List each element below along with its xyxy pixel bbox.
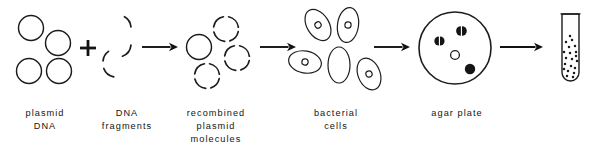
culture-bacterium-dot	[574, 67, 577, 70]
arrow-2-icon	[260, 43, 296, 51]
cloning-diagram: plasmid DNA DNA fragments recombined pla…	[0, 0, 595, 154]
culture-bacterium-dot	[565, 57, 568, 60]
colony-solid	[465, 64, 475, 74]
bacterial-cell	[287, 48, 323, 75]
culture-bacterium-dot	[574, 45, 577, 48]
bacterial-cell	[335, 6, 361, 44]
bacterial-cell-body	[287, 48, 323, 75]
plus-icon	[80, 40, 96, 56]
culture-bacterium-dot	[569, 35, 572, 38]
culture-bacterium-dot	[565, 41, 568, 44]
dna-fragment-arc	[125, 17, 131, 27]
recombined-plasmid-segment	[214, 17, 224, 27]
culture-bacterium-dot	[571, 39, 574, 42]
recombined-plasmid-segment	[225, 61, 236, 70]
recombined-plasmid-intact	[187, 35, 212, 60]
caption-bacterial-cells: bacterial cells	[294, 107, 378, 133]
recombined-plasmid-segment	[214, 32, 225, 41]
bacterial-cell	[328, 47, 350, 83]
dna-fragments-group	[103, 17, 131, 77]
bacterial-cell-body	[300, 5, 337, 45]
recombined-plasmid-segment	[210, 64, 220, 74]
agar-plate-group	[419, 12, 491, 84]
arrow-3-icon	[374, 43, 410, 51]
caption-dna-fragments: DNA fragments	[88, 107, 166, 133]
recombined-plasmid-segment	[230, 32, 238, 41]
culture-bacterium-dot	[570, 65, 573, 68]
recombined-plasmid-segment	[229, 17, 239, 27]
culture-bacterium-dot	[567, 70, 570, 73]
colony-open	[451, 51, 460, 60]
culture-bacterium-dot	[575, 51, 578, 54]
caption-plasmid-dna: plasmid DNA	[8, 107, 82, 133]
culture-bacterium-dot	[563, 51, 566, 54]
dna-fragment-arc	[122, 45, 131, 56]
recombined-plasmid-segment	[211, 79, 219, 88]
recombined-plasmid-segment	[195, 64, 205, 74]
arrow-4-icon	[500, 43, 543, 51]
plasmid-circle	[46, 31, 71, 56]
plasmid-dna-group	[17, 16, 72, 84]
bacterial-cell-body	[335, 6, 361, 44]
culture-bacterium-dot	[566, 75, 569, 78]
culture-bacterium-dot	[576, 60, 579, 63]
plus-operator	[80, 40, 96, 56]
culture-bacterium-dot	[569, 52, 572, 55]
bacterial-cell-body	[328, 47, 350, 83]
bacterial-cells-group	[287, 5, 386, 94]
plasmid-circle	[47, 59, 72, 84]
culture-bacterium-dot	[564, 63, 567, 66]
plasmid-circle	[19, 16, 44, 41]
agar-plate-dish	[419, 12, 491, 84]
culture-bacterium-dot	[571, 58, 574, 61]
bacterial-cell	[353, 55, 386, 94]
culture-tube-group	[561, 14, 581, 81]
plasmid-circle	[17, 59, 42, 84]
culture-bacterium-dot	[572, 76, 575, 79]
plus-bar-v	[87, 40, 90, 56]
dna-fragment-arc	[103, 51, 108, 61]
culture-bacterium-dot	[563, 68, 566, 71]
culture-bacterium-dot	[573, 72, 576, 75]
culture-bacterium-dot	[575, 55, 578, 58]
arrow-1-icon	[142, 43, 178, 51]
dna-fragment-arc	[104, 68, 114, 76]
caption-agar-plate: agar plate	[408, 107, 506, 120]
recombined-plasmids-group	[187, 17, 250, 89]
recombined-plasmid-segment	[195, 79, 206, 88]
test-tube-body	[562, 14, 579, 81]
culture-bacterium-dot	[568, 46, 571, 49]
bacterial-cell-body	[353, 55, 386, 94]
recombined-plasmid-segment	[240, 46, 250, 56]
recombined-plasmid-segment	[241, 61, 249, 70]
bacterial-cell	[300, 5, 337, 45]
caption-recombined-plasmid-molecules: recombined plasmid molecules	[170, 107, 262, 147]
recombined-plasmid-segment	[225, 46, 235, 56]
